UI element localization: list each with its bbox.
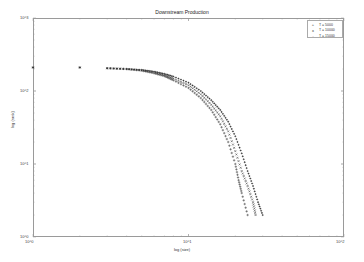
x-marker-icon: x [310,28,316,33]
y-axis-label: log (rank) [10,111,15,128]
dot-marker-icon: . [310,33,316,38]
x-axis-label: log (size) [0,247,364,252]
y-tick-2: 10^2 [20,88,29,93]
plus-marker-icon: + [310,22,316,27]
y-tick-0: 10^0 [20,234,29,239]
x-tick-2: 10^2 [336,239,345,244]
y-tick-1: 10^1 [20,161,29,166]
x-tick-1: 10^1 [183,239,192,244]
chart-canvas [0,0,364,262]
legend-item: . T = 15000 [310,33,340,39]
y-tick-3: 10^3 [20,15,29,20]
legend: + T = 5000 x T = 10000 . T = 15000 [307,20,343,38]
x-tick-0: 10^0 [25,239,34,244]
